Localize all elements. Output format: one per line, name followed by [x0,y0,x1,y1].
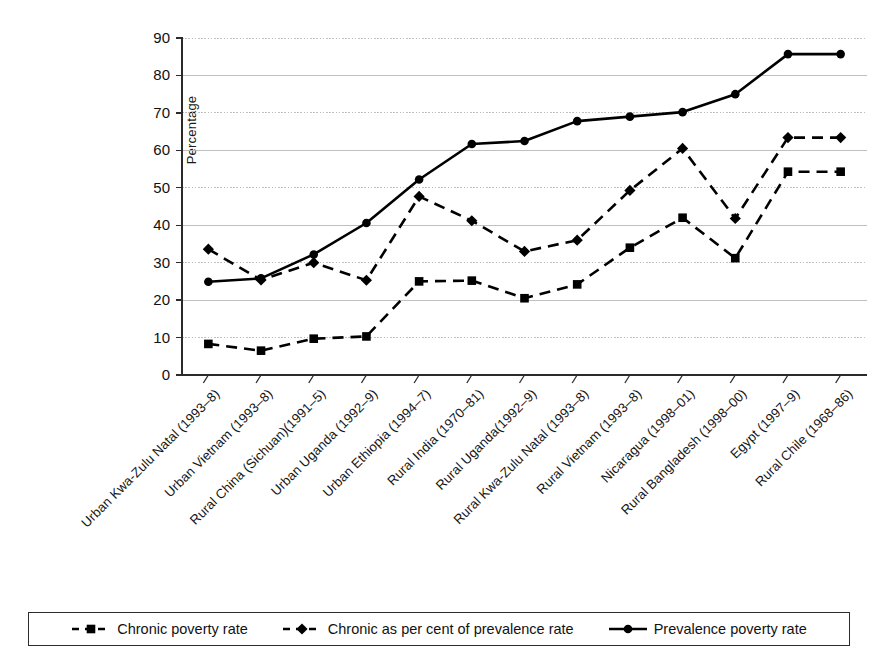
x-axis-tick [572,375,577,383]
y-axis-tick-label: 80 [130,67,170,82]
legend-item: Prevalence poverty rate [608,621,807,637]
data-point-diamond-marker [519,246,530,257]
data-point-diamond-marker [308,257,319,268]
data-point-diamond-marker [572,235,583,246]
data-point-square-marker [573,280,582,289]
data-point-diamond-marker [835,132,846,143]
x-axis-tick [625,375,630,383]
y-axis-tick-label: 90 [130,30,170,45]
data-point-square-marker [415,277,424,286]
data-point-square-marker [626,243,635,252]
chart-plot-area: Percentage Urban Kwa-Zulu Natal (1993–8)… [0,0,881,600]
x-axis-tick [467,375,472,383]
y-axis-tick-label: 0 [130,367,170,382]
data-point-circle-marker [836,50,845,59]
y-axis-tick-label: 50 [130,180,170,195]
data-point-diamond-marker [296,623,307,634]
y-axis-tick-label: 40 [130,217,170,232]
chart-legend: Chronic poverty rateChronic as per cent … [28,612,850,646]
data-point-square-marker [204,340,213,349]
data-point-square-marker [678,213,687,222]
data-point-circle-marker [520,137,529,146]
data-point-diamond-marker [361,275,372,286]
data-point-diamond-marker [203,244,214,255]
y-axis-tick-label: 20 [130,292,170,307]
legend-marker-solid-circle-icon [608,622,648,636]
figure-caption [0,652,881,671]
data-point-diamond-marker [466,215,477,226]
data-point-diamond-marker [414,191,425,202]
data-point-circle-marker [415,175,424,184]
data-point-circle-marker [626,112,635,121]
x-axis-tick [361,375,366,383]
x-axis-tick [309,375,314,383]
data-point-circle-marker [257,274,266,283]
x-axis-tick [678,375,683,383]
data-point-circle-marker [468,140,477,149]
data-point-circle-marker [623,625,632,634]
x-axis-tick [836,375,841,383]
x-axis-tick [730,375,735,383]
series-line [208,172,840,351]
legend-item-label: Prevalence poverty rate [654,621,807,637]
legend-marker-dashed-diamond-icon [282,622,322,636]
x-axis-tick [203,375,208,383]
data-point-circle-marker [678,108,687,117]
legend-item: Chronic poverty rate [71,621,248,637]
data-point-square-marker [520,294,529,303]
y-axis-tick-label: 10 [130,330,170,345]
data-point-circle-marker [362,219,371,228]
data-point-square-marker [784,167,793,176]
y-axis-tick-label: 70 [130,105,170,120]
data-point-square-marker [309,334,318,343]
data-point-square-marker [87,625,96,634]
data-point-square-marker [468,276,477,285]
data-point-circle-marker [573,117,582,126]
data-point-square-marker [257,346,266,355]
x-axis-tick [414,375,419,383]
legend-item-label: Chronic poverty rate [117,621,248,637]
data-point-circle-marker [731,90,740,99]
data-point-circle-marker [204,277,213,286]
y-axis-tick-label: 30 [130,255,170,270]
x-axis-tick [256,375,261,383]
data-point-circle-marker [309,250,318,259]
data-point-square-marker [362,332,371,341]
legend-marker-dashed-square-icon [71,622,111,636]
data-point-square-marker [836,167,845,176]
y-axis-tick-label: 60 [130,142,170,157]
legend-item-label: Chronic as per cent of prevalence rate [328,621,574,637]
x-axis-tick [783,375,788,383]
x-axis-tick [520,375,525,383]
legend-item: Chronic as per cent of prevalence rate [282,621,574,637]
data-point-circle-marker [784,50,793,59]
figure: Percentage Urban Kwa-Zulu Natal (1993–8)… [0,0,881,671]
data-point-square-marker [731,254,740,263]
